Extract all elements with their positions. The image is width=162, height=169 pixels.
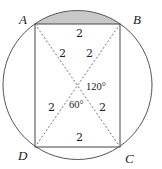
shaded-segment — [35, 11, 120, 24]
vertex-a-label: A — [18, 12, 27, 27]
vertex-c-label: C — [125, 151, 134, 166]
segment-od-length: 2 — [48, 101, 55, 114]
vertex-d-label: D — [17, 148, 28, 163]
angle-boc-label: 120° — [86, 81, 106, 92]
segment-oa-length: 2 — [59, 47, 66, 60]
geometry-diagram: A B C D 2 2 2 2 2 2 120° 60° — [0, 0, 162, 169]
segment-ob-length: 2 — [86, 47, 93, 60]
side-ab-length: 2 — [76, 27, 83, 40]
side-dc-length: 2 — [76, 131, 83, 144]
angle-doc-label: 60° — [69, 99, 84, 110]
vertex-b-label: B — [133, 12, 141, 27]
segment-oc-length: 2 — [99, 101, 106, 114]
